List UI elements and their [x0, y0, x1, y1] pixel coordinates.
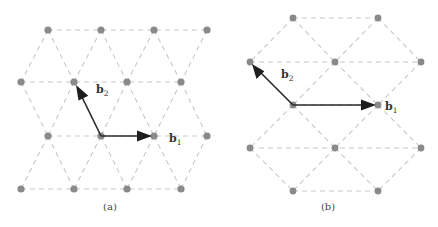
panel-b-label-b1: b1 — [385, 100, 397, 115]
panel-a-vector-b1 — [101, 131, 152, 142]
panel-a-lattice-lines — [21, 30, 207, 189]
panel-a-label-b1: b1 — [169, 132, 181, 147]
arrowhead-icon — [137, 131, 152, 142]
arrowhead-icon — [76, 85, 88, 101]
panel-a: b1 b2 (a) — [17, 26, 210, 212]
panel-b-label-b2: b2 — [281, 68, 294, 83]
panel-b-vector-b1 — [293, 100, 376, 111]
arrowhead-icon — [252, 64, 264, 79]
panel-b: b1 b2 (b) — [247, 15, 425, 212]
panel-a-label-b2: b2 — [96, 83, 109, 98]
panel-b-caption: (b) — [321, 201, 335, 212]
panel-a-caption: (a) — [103, 201, 117, 212]
lattice-figure: b1 b2 (a) — [0, 0, 438, 227]
